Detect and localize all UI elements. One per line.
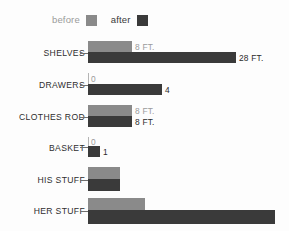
bar-after: 1 (88, 146, 100, 157)
legend-label-after: after (111, 15, 131, 25)
bar-value-before: 8 FT. (135, 42, 155, 50)
bar-value-before: 0 (91, 137, 96, 145)
chart-row: BASKET 0 1 (0, 137, 289, 157)
axis-tick (80, 85, 88, 86)
axis-tick (80, 147, 88, 148)
bar-value-after: 1 (103, 147, 108, 155)
bar-group: 0 1 (88, 137, 100, 157)
legend-item-after: after (111, 15, 148, 26)
chart-row: HER STUFF (0, 198, 289, 226)
category-label: SHELVES (3, 49, 85, 58)
bar-value-after: 28 FT. (239, 53, 263, 61)
bar-after (88, 210, 275, 224)
category-label: HER STUFF (3, 207, 85, 216)
bar-after: 28 FT. (88, 52, 236, 63)
legend-swatch-after (137, 15, 148, 26)
bar-group (88, 198, 275, 224)
chart-row: SHELVES 8 FT. 28 FT. (0, 41, 289, 65)
axis-tick (80, 211, 88, 212)
bar-before (88, 167, 120, 179)
bar-before (88, 198, 145, 210)
chart-row: HIS STUFF (0, 167, 289, 193)
bar-after (88, 179, 120, 191)
chart-row: CLOTHES ROD 8 FT. 8 FT. (0, 105, 289, 129)
chart-legend: before after (52, 13, 148, 27)
legend-item-before: before (52, 15, 97, 26)
axis-tick (80, 53, 88, 54)
bar-before: 8 FT. (88, 105, 132, 116)
bar-group (88, 167, 120, 191)
bar-group: 0 4 (88, 73, 162, 95)
category-label: DRAWERS (3, 81, 85, 90)
bar-group: 8 FT. 28 FT. (88, 41, 236, 63)
bar-value-after: 8 FT. (135, 117, 155, 125)
bar-value-after: 4 (165, 85, 170, 93)
bar-chart: before after SHELVES 8 FT. 28 FT. DRAWE (0, 0, 289, 231)
plot-area: SHELVES 8 FT. 28 FT. DRAWERS 0 (0, 36, 289, 231)
bar-value-before: 8 FT. (135, 106, 155, 114)
legend-swatch-before (86, 15, 97, 26)
category-label: HIS STUFF (3, 176, 85, 185)
bar-after: 4 (88, 84, 162, 95)
legend-label-before: before (52, 15, 80, 25)
bar-before: 8 FT. (88, 41, 132, 52)
category-label: BASKET (3, 144, 85, 153)
bar-after: 8 FT. (88, 116, 132, 127)
bar-group: 8 FT. 8 FT. (88, 105, 132, 127)
zero-stub (88, 73, 89, 84)
zero-stub (88, 137, 89, 146)
axis-tick (80, 180, 88, 181)
bar-value-before: 0 (91, 74, 96, 82)
axis-tick (80, 117, 88, 118)
chart-row: DRAWERS 0 4 (0, 73, 289, 97)
category-label: CLOTHES ROD (3, 113, 85, 122)
